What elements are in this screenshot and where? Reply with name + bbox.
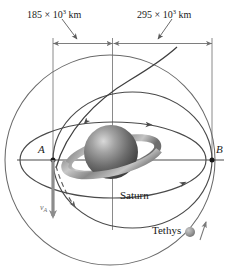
dimension-label-right-value: 295 × 10 — [137, 9, 173, 20]
saturn-body-group — [65, 125, 162, 182]
dimension-label-left: 185 × 103 km — [27, 10, 81, 20]
point-a-label: A — [38, 144, 45, 155]
dimension-label-left-value: 185 × 10 — [27, 9, 63, 20]
dimension-label-left-unit: km — [66, 9, 81, 20]
point-b-marker — [210, 158, 215, 163]
saturn-flyby-figure: 185 × 103 km 295 × 103 km A B Saturn Tet… — [0, 0, 230, 268]
leader-line-right-dimension — [158, 19, 172, 39]
point-b-label: B — [216, 144, 223, 155]
tethys-direction-arrow — [200, 222, 206, 240]
velocity-subscript: A — [44, 207, 48, 213]
velocity-vector-a-label: vA — [40, 204, 47, 212]
dimension-label-right-unit: km — [176, 9, 191, 20]
tethys-label: Tethys — [152, 225, 181, 236]
leader-line-left-dimension — [62, 19, 77, 39]
tethys-orbit-direction-arrow-lower — [172, 182, 186, 189]
dimension-label-right: 295 × 103 km — [137, 10, 191, 20]
saturn-label: Saturn — [120, 190, 149, 201]
tethys-moon — [185, 227, 195, 237]
diagram-canvas — [0, 0, 230, 268]
